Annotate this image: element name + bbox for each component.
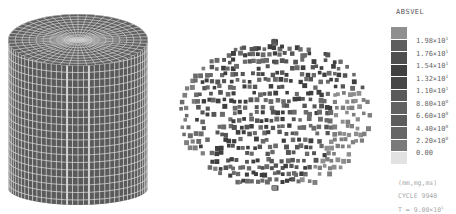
shell-element — [238, 110, 242, 114]
shell-element — [337, 73, 342, 78]
shell-element — [230, 157, 234, 161]
shell-element — [276, 170, 280, 174]
shell-element — [274, 163, 278, 167]
shell-element — [284, 59, 288, 63]
legend-swatch — [391, 102, 407, 115]
shell-element — [272, 46, 276, 50]
shell-element — [238, 51, 243, 56]
shell-element — [274, 117, 279, 122]
shell-element — [266, 64, 270, 68]
shell-element — [227, 144, 231, 148]
shell-element — [228, 61, 232, 65]
shell-element — [185, 114, 189, 118]
shell-element — [182, 133, 186, 137]
shell-element — [260, 179, 264, 183]
shell-element — [327, 171, 332, 176]
shell-element — [325, 157, 329, 161]
shell-element — [309, 77, 313, 81]
shell-element — [280, 117, 284, 121]
legend-value-label: 8.80×100 — [416, 99, 448, 108]
shell-element — [251, 52, 255, 56]
shell-element — [280, 180, 284, 184]
shell-element — [350, 86, 355, 91]
shell-element — [205, 78, 209, 82]
shell-element — [180, 100, 184, 104]
shell-element — [317, 110, 322, 115]
shell-element — [341, 159, 346, 164]
shell-element — [264, 58, 269, 63]
shell-element — [350, 124, 354, 128]
shell-element — [301, 125, 306, 130]
shell-element — [273, 144, 278, 149]
shell-element — [326, 131, 330, 135]
shell-element — [309, 91, 313, 95]
shell-element — [270, 119, 274, 123]
shell-element — [346, 124, 350, 128]
shell-element — [300, 58, 304, 62]
legend-value-label: 0.00 — [416, 149, 433, 157]
shell-element — [214, 151, 219, 156]
shell-element — [284, 78, 288, 82]
shell-element — [257, 72, 261, 76]
shell-element — [328, 118, 333, 123]
shell-element — [336, 92, 340, 96]
shell-element — [270, 106, 275, 111]
shell-element — [301, 97, 305, 101]
shell-element — [245, 173, 249, 177]
shell-element — [357, 104, 362, 109]
shell-element — [313, 165, 317, 169]
shell-element — [258, 145, 262, 149]
shell-element — [213, 86, 217, 90]
shell-element — [226, 139, 231, 144]
shell-element — [184, 106, 188, 110]
shell-element — [286, 158, 291, 163]
shell-element — [345, 120, 350, 125]
shell-element — [219, 167, 223, 171]
shell-element — [280, 70, 284, 74]
shell-element — [269, 159, 273, 163]
shell-element — [336, 144, 340, 148]
shell-element — [200, 120, 205, 125]
shell-element — [361, 86, 365, 90]
legend-swatch — [391, 152, 407, 165]
shell-element — [223, 71, 227, 75]
shell-element — [208, 165, 213, 170]
shell-element — [317, 125, 321, 129]
shell-element — [228, 174, 232, 178]
shell-element — [342, 132, 346, 136]
shell-element — [191, 139, 195, 143]
shell-element — [193, 74, 198, 79]
legend-time-value: T = 9.00×10 — [398, 206, 441, 214]
shell-element — [356, 127, 360, 131]
shell-element — [268, 91, 272, 95]
shell-element — [324, 146, 329, 151]
shell-element — [294, 173, 298, 177]
shell-element — [220, 133, 224, 137]
shell-element — [230, 80, 234, 84]
shell-element — [218, 125, 222, 129]
shell-element — [326, 151, 330, 155]
shell-element — [320, 159, 325, 164]
shell-element — [318, 172, 322, 176]
shell-element — [277, 125, 281, 129]
shell-element — [271, 126, 275, 130]
shell-element — [232, 125, 237, 130]
shell-element — [272, 185, 276, 189]
shell-element — [297, 138, 301, 142]
shell-element — [286, 150, 291, 155]
shell-element — [293, 60, 298, 65]
shell-element — [292, 110, 297, 115]
shell-element — [194, 92, 199, 97]
shell-element — [331, 64, 336, 69]
shell-element — [285, 73, 289, 77]
cylinder-mesh-graphic — [0, 0, 160, 214]
shell-element — [233, 111, 237, 115]
shell-element — [236, 130, 241, 135]
shell-element — [332, 165, 337, 170]
shell-element — [256, 180, 260, 184]
shell-element — [247, 166, 251, 170]
legend-swatch — [391, 27, 407, 40]
shell-element — [341, 120, 345, 124]
shell-element — [366, 126, 371, 131]
shell-element — [308, 179, 312, 183]
